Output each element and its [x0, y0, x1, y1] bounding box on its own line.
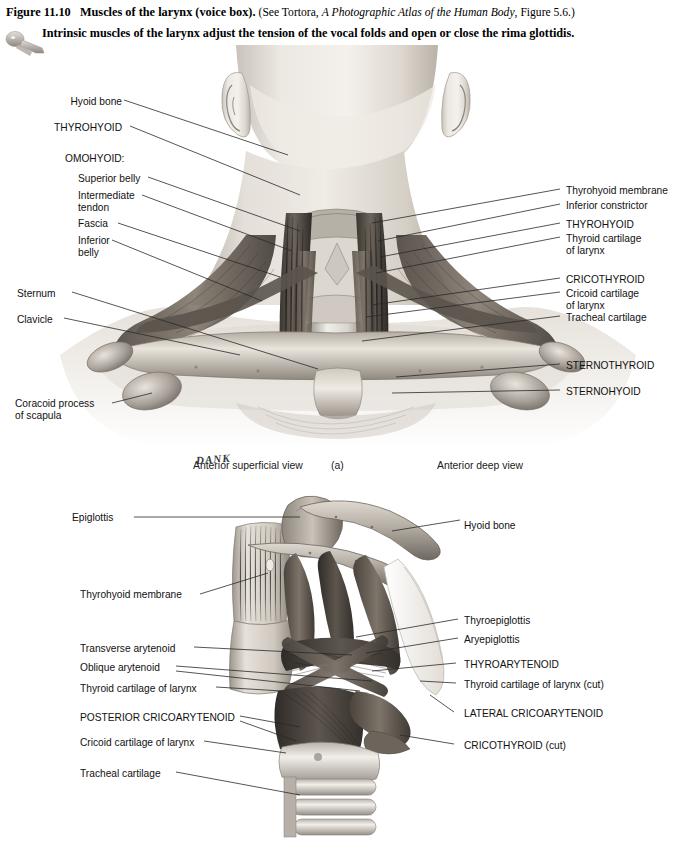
label-thyroarytenoid: THYROARYTENOID: [464, 659, 559, 671]
caption-anterior-deep-view: Anterior deep view: [437, 460, 523, 471]
panel-a-anterior-views: DANK: [0, 55, 675, 485]
label-hyoid-bone-lateral: Hyoid bone: [464, 520, 516, 532]
caption-anterior-superficial-view: Anterior superficial view: [193, 460, 303, 471]
figure-subtitle: Intrinsic muscles of the larynx adjust t…: [42, 26, 672, 41]
label-thyrohyoid: THYROHYOID: [0, 122, 122, 134]
label-inferior-belly: Inferior belly: [78, 235, 110, 258]
figure-source-prefix: (See Tortora,: [259, 6, 319, 19]
label-thyroid-cartilage-cut: Thyroid cartilage of larynx (cut): [464, 679, 604, 691]
figure-source-suffix: , Figure 5.6.): [515, 6, 575, 19]
label-omohyoid-group: OMOHYOID:: [65, 153, 124, 165]
label-intermediate-tendon: Intermediate tendon: [78, 190, 135, 213]
label-sternohyoid: STERNOHYOID: [566, 386, 641, 398]
label-posterior-cricoarytenoid: POSTERIOR CRICOARYTENOID: [80, 712, 235, 724]
label-aryepiglottis: Aryepiglottis: [464, 634, 520, 646]
caption-panel-letter-a: (a): [331, 460, 344, 471]
label-hyoid-bone: Hyoid bone: [0, 96, 122, 108]
label-coracoid-process: Coracoid process of scapula: [15, 398, 94, 421]
label-cricothyroid: CRICOTHYROID: [566, 274, 645, 286]
label-oblique-arytenoid: Oblique arytenoid: [80, 662, 160, 674]
figure-number: Figure 11.10: [6, 5, 71, 19]
label-sternothyroid: STERNOTHYROID: [566, 360, 654, 372]
panel-a-illustration: [0, 55, 675, 485]
figure-source-title: A Photographic Atlas of the Human Body: [322, 6, 515, 19]
label-sternum: Sternum: [17, 288, 56, 300]
figure-title: Muscles of the larynx (voice box).: [80, 5, 256, 19]
label-tracheal-cartilage-lateral: Tracheal cartilage: [80, 768, 161, 780]
label-tracheal-cartilage: Tracheal cartilage: [566, 312, 647, 324]
label-cricoid-cartilage: Cricoid cartilage of larynx: [566, 288, 639, 311]
figure-caption-line: Figure 11.10 Muscles of the larynx (voic…: [6, 5, 670, 20]
label-thyroid-cartilage-lateral: Thyroid cartilage of larynx: [80, 683, 197, 695]
label-clavicle: Clavicle: [17, 314, 53, 326]
label-cricothyroid-cut: CRICOTHYROID (cut): [464, 740, 566, 752]
label-thyrohyoid-deep: THYROHYOID: [566, 219, 634, 231]
label-thyrohyoid-membrane: Thyrohyoid membrane: [566, 185, 668, 197]
label-lateral-cricoarytenoid: LATERAL CRICOARYTENOID: [464, 708, 603, 720]
label-thyroepiglottis: Thyroepiglottis: [464, 615, 530, 627]
label-epiglottis: Epiglottis: [72, 512, 113, 524]
label-thyrohyoid-membrane-lateral: Thyrohyoid membrane: [80, 589, 182, 601]
label-thyroid-cartilage: Thyroid cartilage of larynx: [566, 233, 641, 256]
label-transverse-arytenoid: Transverse arytenoid: [80, 643, 175, 655]
label-cricoid-cartilage-lateral: Cricoid cartilage of larynx: [80, 737, 194, 749]
label-fascia: Fascia: [78, 218, 108, 230]
label-superior-belly: Superior belly: [78, 173, 140, 185]
label-inferior-constrictor: Inferior constrictor: [566, 200, 648, 212]
